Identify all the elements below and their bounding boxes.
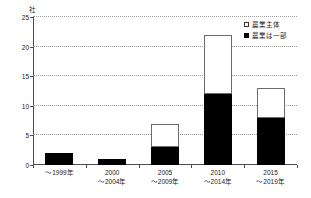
bar-group [45,17,73,165]
x-axis-category-label: 2005～2009年 [137,168,193,186]
stacked-bar-chart: 社 0510152025 ～1999年2000～2004年2005～2009年2… [0,0,311,198]
y-axis-tick-label: 25 [22,14,29,21]
bar-group [98,17,126,165]
y-axis-unit-label: 社 [29,6,36,14]
bar-segment [257,118,285,165]
x-axis-category-label: 2000～2004年 [84,168,140,186]
open-square-icon [244,22,249,27]
y-axis-tick-label: 15 [22,73,29,80]
y-axis-tick-label: 5 [25,132,29,139]
y-axis-tick-label: 20 [22,43,29,50]
bar-segment [98,159,126,165]
legend-item-main: 農業主体 [244,20,306,29]
chart-legend: 農業主体 農業は一部 [244,20,306,42]
legend-item-partial: 農業は一部 [244,31,306,40]
y-axis-tick-label: 10 [22,102,29,109]
x-axis-category-label: 2015～2019年 [243,168,299,186]
legend-label-partial: 農業は一部 [252,32,287,40]
bar-group [151,17,179,165]
filled-square-icon [244,33,249,38]
bar-segment [151,124,179,148]
bar-group [204,17,232,165]
bar-segment [204,94,232,165]
x-axis-category-labels: ～1999年2000～2004年2005～2009年2010～2014年2015… [33,168,297,196]
legend-label-main: 農業主体 [252,21,280,29]
x-axis-category-label: 2010～2014年 [190,168,246,186]
bar-segment [257,88,285,118]
y-axis-tick-label: 0 [25,162,29,169]
bar-segment [204,35,232,94]
bar-segment [45,153,73,165]
x-axis-category-label: ～1999年 [31,168,87,177]
bar-segment [151,147,179,165]
